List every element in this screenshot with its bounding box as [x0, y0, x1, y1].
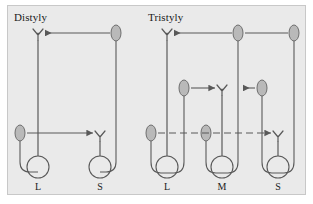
tristyly-L-ovary [156, 156, 178, 178]
distyly-S-anther [111, 25, 121, 41]
tristyly-morph-label-M: M [212, 181, 232, 192]
tristyly-S-ovary [267, 156, 289, 178]
tristyly-S-filament-high [278, 40, 294, 173]
tristyly-L-flower [146, 29, 189, 178]
tristyly-M-filament-high [222, 40, 238, 173]
tristyly-L-anther-low [146, 125, 156, 141]
tristyly-M-ovary [211, 156, 233, 178]
diagram-canvas [0, 0, 313, 204]
distyly-panel-title: Distyly [14, 11, 47, 23]
distyly-panel-group [15, 25, 121, 178]
distyly-S-stigma-icon [95, 131, 105, 141]
distyly-L-flower [15, 29, 49, 178]
tristyly-L-anther-mid [179, 80, 189, 96]
tristyly-L-filament-mid [167, 95, 184, 173]
distyly-morph-label-L: L [28, 181, 48, 192]
distyly-L-stigma-icon [33, 29, 43, 40]
tristyly-panel-group [146, 25, 299, 178]
tristyly-S-anther-mid [257, 80, 267, 96]
tristyly-L-stigma-icon [162, 29, 172, 40]
tristyly-morph-label-L: L [157, 181, 177, 192]
tristyly-M-flower [201, 25, 243, 178]
tristyly-M-anther-high [233, 25, 243, 41]
tristyly-S-flower [257, 25, 299, 178]
distyly-L-anther [15, 125, 25, 141]
distyly-S-flower [89, 25, 121, 178]
tristyly-M-stigma-icon [217, 85, 227, 95]
distyly-S-filament [100, 40, 116, 172]
distyly-L-ovary [27, 156, 49, 178]
tristyly-panel-title: Tristyly [148, 11, 183, 23]
tristyly-morph-label-S: S [268, 181, 288, 192]
tristyly-S-stigma-icon [273, 131, 283, 141]
tristyly-S-anther-high [289, 25, 299, 41]
distyly-morph-label-S: S [90, 181, 110, 192]
distyly-S-ovary [89, 156, 111, 178]
heterostyly-figure: Distyly Tristyly L S L M S [0, 0, 313, 204]
